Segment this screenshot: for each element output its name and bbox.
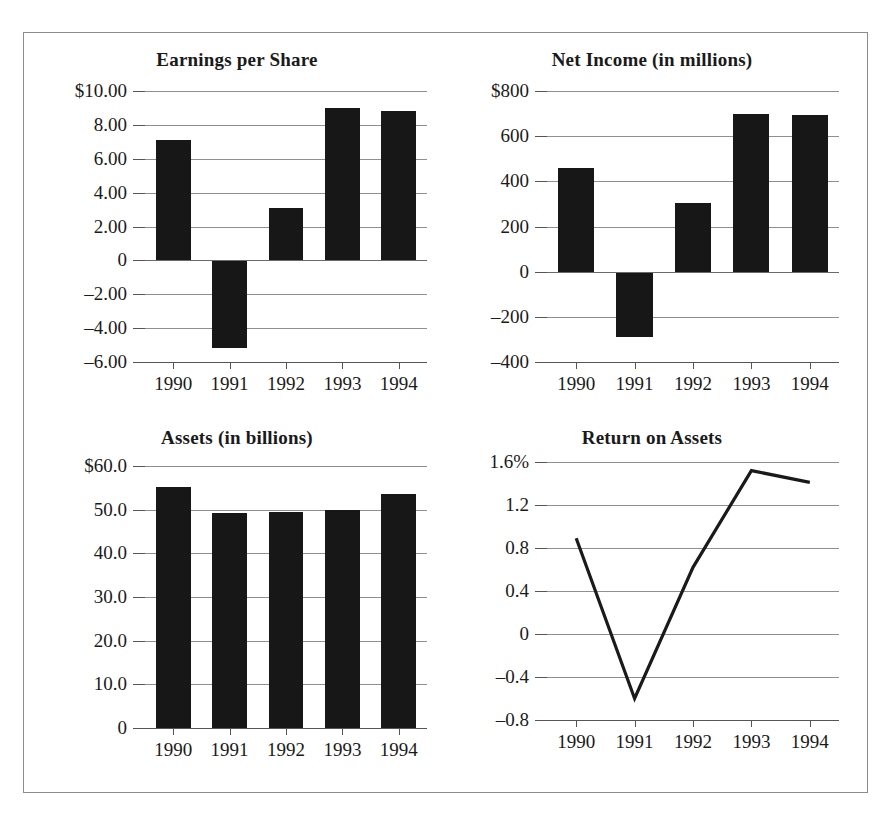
x-axis-tick (751, 720, 752, 727)
y-axis-tick (535, 548, 547, 549)
bar (156, 487, 191, 728)
y-axis-label: 0 (443, 262, 529, 281)
bar (156, 140, 191, 260)
y-axis-label: 20.0 (41, 631, 127, 650)
y-axis-tick (535, 227, 547, 228)
y-axis-tick (535, 136, 547, 137)
y-axis-label: 6.00 (41, 149, 127, 168)
x-axis-label: 1994 (371, 374, 427, 394)
y-axis-tick (133, 193, 145, 194)
bar (558, 168, 594, 272)
x-axis-label: 1990 (145, 740, 201, 760)
x-axis-label: 1994 (371, 740, 427, 760)
y-axis-tick (133, 294, 145, 295)
y-axis-label: 0.4 (443, 581, 529, 600)
x-axis-tick (635, 720, 636, 727)
y-axis-label: 40.0 (41, 543, 127, 562)
x-axis-label: 1992 (258, 374, 314, 394)
x-axis-tick (693, 720, 694, 727)
y-axis-label: 0 (443, 624, 529, 643)
x-axis-tick (399, 728, 400, 735)
y-axis-label: $60.0 (41, 456, 127, 475)
y-axis-tick (535, 181, 547, 182)
x-axis-tick (230, 728, 231, 735)
x-axis-tick (810, 720, 811, 727)
x-axis-tick (693, 362, 694, 369)
y-axis-label: 600 (443, 126, 529, 145)
y-axis-tick (133, 510, 145, 511)
bar (733, 114, 769, 272)
figure-frame: Earnings per Share $10.008.006.004.002.0… (23, 32, 868, 793)
zero-line (547, 272, 839, 273)
y-axis-tick (133, 728, 145, 729)
y-axis-label: –4.00 (41, 318, 127, 337)
y-axis-label: 4.00 (41, 183, 127, 202)
chart-title-earnings-per-share: Earnings per Share (32, 49, 442, 71)
y-axis-tick (535, 317, 547, 318)
chart-title-return-on-assets: Return on Assets (442, 427, 862, 449)
x-axis-tick (342, 362, 343, 369)
y-axis-tick (133, 125, 145, 126)
y-axis-label: $800 (443, 81, 529, 100)
y-axis-tick (535, 462, 547, 463)
chart-panel-assets: Assets (in billions) $60.050.040.030.020… (32, 413, 442, 789)
x-axis-label: 1990 (547, 732, 605, 752)
y-axis-label: 400 (443, 171, 529, 190)
y-axis-tick (535, 591, 547, 592)
y-axis-tick (133, 641, 145, 642)
y-axis-label: –200 (443, 307, 529, 326)
y-axis-tick (535, 505, 547, 506)
y-axis-label: 200 (443, 217, 529, 236)
x-axis-tick (399, 362, 400, 369)
y-axis-tick (133, 684, 145, 685)
y-axis-label: 2.00 (41, 217, 127, 236)
x-axis-label: 1992 (664, 732, 722, 752)
plot-area-earnings-per-share: $10.008.006.004.002.000–2.00–4.00–6.0019… (145, 91, 427, 362)
x-axis-label: 1990 (145, 374, 201, 394)
y-axis-tick (133, 227, 145, 228)
x-axis-label: 1994 (781, 374, 839, 394)
x-axis-tick (286, 362, 287, 369)
y-axis-tick (133, 553, 145, 554)
y-axis-label: –2.00 (41, 284, 127, 303)
x-axis-label: 1993 (314, 740, 370, 760)
y-axis-tick (133, 362, 145, 363)
line-series (547, 462, 839, 720)
y-axis-tick (133, 328, 145, 329)
chart-panel-earnings-per-share: Earnings per Share $10.008.006.004.002.0… (32, 35, 442, 405)
x-axis-label: 1993 (722, 732, 780, 752)
chart-panel-net-income: Net Income (in millions) $8006004002000–… (442, 35, 862, 405)
y-axis-tick (535, 362, 547, 363)
x-axis-tick (810, 362, 811, 369)
gridline (145, 91, 427, 92)
plot-area-net-income: $8006004002000–200–400199019911992199319… (547, 91, 839, 362)
bar (381, 111, 416, 260)
y-axis-tick (133, 91, 145, 92)
y-axis-label: 0 (41, 250, 127, 269)
x-axis-label: 1991 (201, 374, 257, 394)
y-axis-tick (535, 91, 547, 92)
y-axis-label: 50.0 (41, 500, 127, 519)
bar (325, 510, 360, 728)
gridline (547, 91, 839, 92)
bar (616, 272, 652, 337)
x-axis-label: 1994 (781, 732, 839, 752)
x-axis-tick (286, 728, 287, 735)
plot-area-return-on-assets: 1.6%1.20.80.40–0.4–0.8199019911992199319… (547, 462, 839, 720)
y-axis-tick (535, 272, 547, 273)
y-axis-label: 0 (41, 718, 127, 737)
x-axis-label: 1991 (201, 740, 257, 760)
bar (269, 208, 304, 261)
plot-area-assets: $60.050.040.030.020.010.0019901991199219… (145, 466, 427, 728)
y-axis-label: 1.6% (443, 452, 529, 471)
y-axis-label: –0.4 (443, 667, 529, 686)
x-axis-label: 1993 (314, 374, 370, 394)
y-axis-label: 1.2 (443, 495, 529, 514)
gridline (145, 328, 427, 329)
bar (792, 115, 828, 272)
chart-title-net-income: Net Income (in millions) (442, 49, 862, 71)
chart-title-assets: Assets (in billions) (32, 427, 442, 449)
bar (269, 512, 304, 728)
x-axis-tick (576, 362, 577, 369)
y-axis-tick (133, 260, 145, 261)
